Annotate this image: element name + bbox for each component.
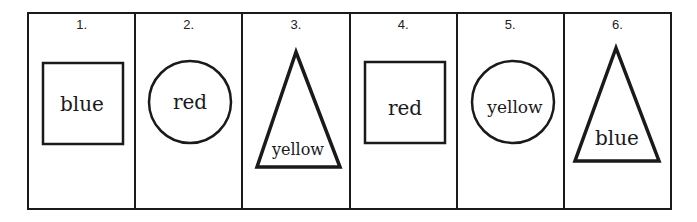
cell-6: 6. blue xyxy=(565,14,670,208)
shape-word-grid: 1. blue 2. red 3. yellow 4. red 5. yello… xyxy=(27,12,672,210)
shape-word: red xyxy=(173,90,207,114)
square-shape: blue xyxy=(29,14,135,208)
cell-2: 2. red xyxy=(136,14,243,208)
circle-shape: red xyxy=(136,14,242,208)
triangle-shape: yellow xyxy=(243,14,349,208)
shape-word: blue xyxy=(60,92,104,116)
cell-5: 5. yellow xyxy=(458,14,565,208)
cell-4: 4. red xyxy=(351,14,458,208)
cell-3: 3. yellow xyxy=(243,14,350,208)
cell-1: 1. blue xyxy=(29,14,136,208)
shape-word: yellow xyxy=(486,97,543,117)
circle-shape: yellow xyxy=(458,14,564,208)
triangle-shape: blue xyxy=(565,14,671,208)
shape-word: yellow xyxy=(271,140,324,159)
shape-word: red xyxy=(387,96,421,120)
shape-word: blue xyxy=(595,126,639,150)
square-shape: red xyxy=(351,14,457,208)
